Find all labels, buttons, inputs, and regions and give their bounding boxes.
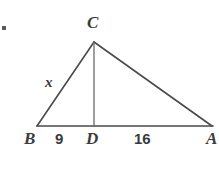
segment-length-da: 16 [134, 131, 151, 146]
vertex-label-b: B [24, 130, 35, 147]
diagram-canvas: C B A D 9 16 x [0, 0, 219, 187]
vertex-label-c: C [87, 14, 98, 31]
edge-CA [94, 42, 212, 126]
segment-length-bd: 9 [55, 131, 63, 146]
vertex-label-a: A [206, 130, 217, 147]
triangle-figure [0, 0, 219, 187]
vertex-label-d: D [86, 130, 98, 147]
segment-variable-x: x [45, 75, 53, 90]
